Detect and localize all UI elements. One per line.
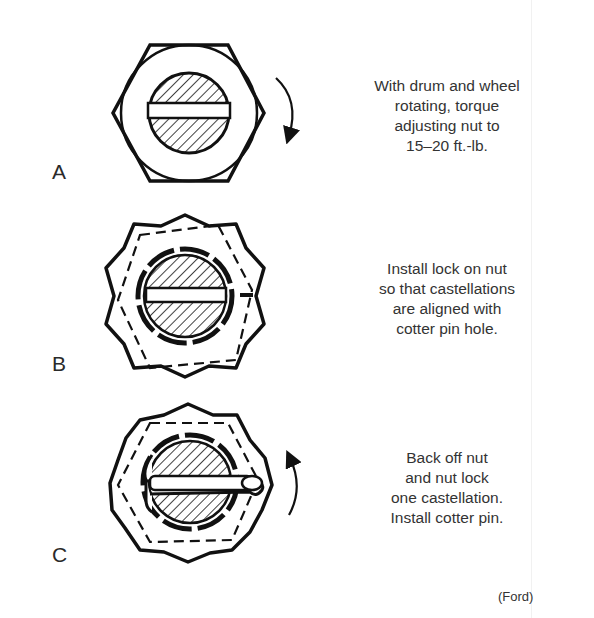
caption-line: adjusting nut to — [337, 116, 557, 136]
spindle-slot — [148, 103, 230, 118]
clockwise-arrow-icon — [276, 78, 292, 136]
step-label-a: A — [52, 160, 66, 184]
step-b-graphic — [106, 215, 264, 377]
step-c-graphic — [110, 404, 297, 562]
cotter-pin-hole-slot — [146, 288, 226, 302]
step-label-b: B — [52, 352, 66, 376]
caption-line: cotter pin hole. — [337, 319, 557, 339]
caption-line: one castellation. — [337, 488, 557, 508]
counterclockwise-arrow-icon — [289, 458, 297, 515]
caption-line: and nut lock — [337, 468, 557, 488]
figure-credit: (Ford) — [498, 589, 533, 604]
caption-line: rotating, torque — [337, 96, 557, 116]
step-b-caption: Install lock on nut so that castellation… — [337, 259, 557, 339]
cotter-pin-shaft — [150, 476, 252, 490]
caption-line: Install cotter pin. — [337, 508, 557, 528]
caption-line: so that castellations — [337, 279, 557, 299]
step-a-graphic — [113, 45, 292, 181]
caption-line: Back off nut — [337, 448, 557, 468]
step-c-caption: Back off nut and nut lock one castellati… — [337, 448, 557, 528]
caption-line: are aligned with — [337, 299, 557, 319]
caption-line: Install lock on nut — [337, 259, 557, 279]
caption-line: 15–20 ft.-lb. — [337, 136, 557, 156]
cotter-pin-eye — [242, 476, 262, 490]
caption-line: With drum and wheel — [337, 76, 557, 96]
step-a-caption: With drum and wheel rotating, torque adj… — [337, 76, 557, 156]
step-label-c: C — [52, 543, 67, 567]
